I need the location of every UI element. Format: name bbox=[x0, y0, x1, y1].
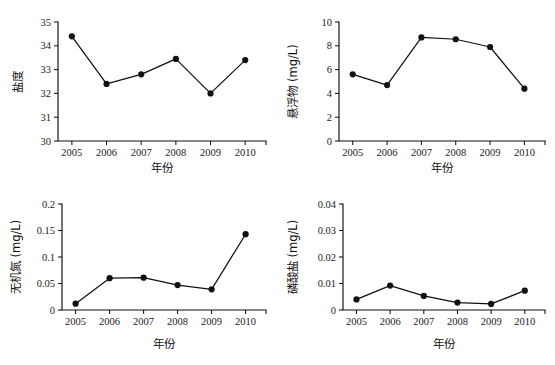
data-point-marker bbox=[141, 275, 147, 281]
data-point-marker bbox=[387, 283, 393, 289]
data-point-marker bbox=[487, 44, 493, 50]
chart-panel-phosphate: 00.010.020.030.0420052006200720082009201… bbox=[277, 182, 555, 365]
data-point-marker bbox=[242, 57, 248, 63]
x-tick-label: 2009 bbox=[200, 147, 221, 158]
data-series-line bbox=[353, 37, 525, 88]
y-tick-label: 0.1 bbox=[42, 252, 55, 263]
y-tick-label: 0.03 bbox=[318, 225, 336, 236]
data-point-marker bbox=[522, 288, 528, 294]
x-axis-label: 年份 bbox=[151, 161, 174, 175]
x-tick-label: 2005 bbox=[346, 316, 367, 327]
x-tick-label: 2008 bbox=[447, 316, 468, 327]
chart-svg: 00.010.020.030.0420052006200720082009201… bbox=[277, 182, 555, 365]
axis-spines bbox=[339, 22, 545, 141]
y-tick-label: 4 bbox=[327, 88, 333, 99]
data-point-marker bbox=[175, 282, 181, 288]
y-tick-label: 33 bbox=[41, 64, 52, 75]
y-axis-label: 磷酸盐 (mg/L) bbox=[286, 220, 300, 294]
y-tick-label: 0 bbox=[50, 305, 55, 316]
y-axis-label: 悬浮物 (mg/L) bbox=[286, 44, 300, 118]
chart-svg: 0246810200520062007200820092010悬浮物 (mg/L… bbox=[277, 0, 555, 182]
data-point-marker bbox=[521, 86, 527, 92]
y-tick-label: 35 bbox=[41, 17, 52, 28]
y-axis-label: 无机氮 (mg/L) bbox=[9, 220, 23, 294]
data-point-marker bbox=[73, 301, 79, 307]
x-axis-label: 年份 bbox=[433, 337, 456, 351]
data-point-marker bbox=[243, 231, 249, 237]
y-tick-label: 8 bbox=[327, 40, 332, 51]
x-tick-label: 2009 bbox=[480, 147, 501, 158]
data-point-marker bbox=[418, 34, 424, 40]
x-axis-label: 年份 bbox=[153, 337, 176, 351]
data-point-marker bbox=[207, 90, 213, 96]
chart-panel-suspended-solids: 0246810200520062007200820092010悬浮物 (mg/L… bbox=[277, 0, 555, 182]
x-tick-label: 2010 bbox=[514, 316, 535, 327]
data-point-marker bbox=[454, 299, 460, 305]
x-tick-label: 2005 bbox=[61, 147, 82, 158]
x-tick-label: 2006 bbox=[377, 147, 398, 158]
data-point-marker bbox=[103, 81, 109, 87]
data-point-marker bbox=[353, 296, 359, 302]
x-axis-label: 年份 bbox=[431, 161, 454, 175]
y-tick-label: 0 bbox=[327, 136, 332, 147]
data-point-marker bbox=[209, 286, 215, 292]
y-tick-label: 0 bbox=[331, 305, 336, 316]
chart-panel-salinity: 303132333435200520062007200820092010盐度年份 bbox=[0, 0, 277, 182]
x-tick-label: 2007 bbox=[133, 316, 154, 327]
data-point-marker bbox=[350, 71, 356, 77]
axis-spines bbox=[58, 22, 266, 141]
chart-svg: 303132333435200520062007200820092010盐度年份 bbox=[0, 0, 277, 182]
data-series-line bbox=[76, 234, 246, 303]
x-tick-label: 2007 bbox=[131, 147, 152, 158]
data-point-marker bbox=[453, 36, 459, 42]
x-tick-label: 2005 bbox=[342, 147, 363, 158]
y-tick-label: 0.04 bbox=[318, 199, 337, 210]
y-tick-label: 6 bbox=[327, 64, 332, 75]
y-tick-label: 10 bbox=[322, 17, 333, 28]
x-tick-label: 2007 bbox=[411, 147, 432, 158]
chart-panel-inorganic-nitrogen: 00.050.10.150.2200520062007200820092010无… bbox=[0, 182, 277, 365]
y-tick-label: 34 bbox=[41, 40, 52, 51]
y-tick-label: 0.02 bbox=[318, 252, 336, 263]
y-tick-label: 31 bbox=[41, 112, 52, 123]
y-tick-label: 32 bbox=[41, 88, 52, 99]
axis-spines bbox=[62, 204, 266, 310]
x-tick-label: 2006 bbox=[96, 147, 117, 158]
y-tick-label: 0.05 bbox=[37, 278, 55, 289]
x-tick-label: 2008 bbox=[445, 147, 466, 158]
x-tick-label: 2009 bbox=[201, 316, 222, 327]
x-tick-label: 2009 bbox=[481, 316, 502, 327]
x-tick-label: 2008 bbox=[167, 316, 188, 327]
y-axis-label: 盐度 bbox=[11, 70, 25, 93]
data-point-marker bbox=[107, 275, 113, 281]
x-tick-label: 2007 bbox=[413, 316, 434, 327]
data-point-marker bbox=[69, 33, 75, 39]
multi-panel-line-chart-figure: 303132333435200520062007200820092010盐度年份… bbox=[0, 0, 555, 365]
x-tick-label: 2006 bbox=[380, 316, 401, 327]
x-tick-label: 2006 bbox=[99, 316, 120, 327]
y-tick-label: 0.01 bbox=[318, 278, 336, 289]
x-tick-label: 2010 bbox=[235, 147, 256, 158]
data-point-marker bbox=[488, 301, 494, 307]
y-tick-label: 0.15 bbox=[37, 225, 55, 236]
data-point-marker bbox=[384, 82, 390, 88]
data-point-marker bbox=[173, 56, 179, 62]
y-tick-label: 2 bbox=[327, 112, 332, 123]
data-point-marker bbox=[138, 71, 144, 77]
y-tick-label: 0.2 bbox=[42, 199, 55, 210]
x-tick-label: 2005 bbox=[65, 316, 86, 327]
x-tick-label: 2008 bbox=[165, 147, 186, 158]
x-tick-label: 2010 bbox=[235, 316, 256, 327]
chart-svg: 00.050.10.150.2200520062007200820092010无… bbox=[0, 182, 277, 365]
data-point-marker bbox=[421, 293, 427, 299]
x-tick-label: 2010 bbox=[514, 147, 535, 158]
data-series-line bbox=[72, 36, 245, 93]
data-series-line bbox=[356, 286, 524, 304]
y-tick-label: 30 bbox=[41, 136, 52, 147]
